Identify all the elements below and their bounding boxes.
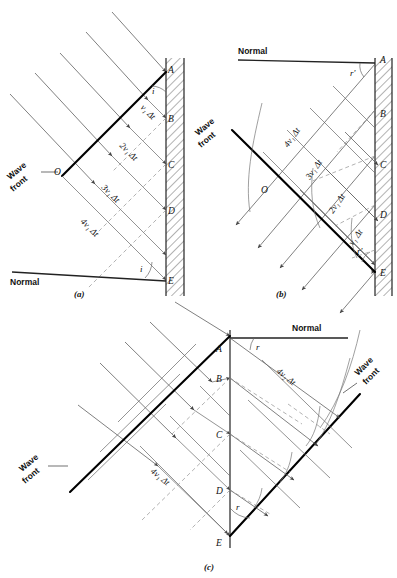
panel-b-point-C: C xyxy=(380,160,387,170)
panel-b-angle-label-bottom: r' xyxy=(357,246,364,256)
panel-b-distance-4: v₁ Δt xyxy=(346,227,364,247)
panel-c-rays-to-interface xyxy=(158,378,230,536)
panel-b-point-E: E xyxy=(379,268,386,278)
panel-b-distance-1: 4v₁ Δt xyxy=(281,125,302,149)
panel-c-incident-wavefront xyxy=(70,336,230,492)
panel-c-dashed-wavelets-medium1 xyxy=(142,378,230,530)
panel-a-point-B: B xyxy=(168,114,174,124)
panel-b-reflected-rays xyxy=(236,64,375,313)
panel-a-point-E: E xyxy=(167,276,174,286)
figure-svg: i Normal i Wave front A B C D E O v₁ Δt … xyxy=(0,0,397,578)
panel-a-point-A: A xyxy=(167,65,174,75)
panel-c-incident-rays xyxy=(78,302,230,466)
panel-c-angle-label-top: r xyxy=(256,342,260,352)
panel-b: Normal r' xyxy=(193,46,392,313)
panel-a-point-O: O xyxy=(54,167,61,177)
panel-a-angle-label-bottom: i xyxy=(140,264,143,274)
panel-a-incident-wavefront xyxy=(62,72,166,176)
panel-a-point-C: C xyxy=(168,160,175,170)
panel-b-angle-rprime-top xyxy=(360,63,364,77)
panel-c-grid-medium2 xyxy=(240,360,352,508)
panel-c-refracted-rays xyxy=(230,338,340,516)
panel-c-point-A: A xyxy=(215,344,222,354)
panel-c-point-E: E xyxy=(215,538,222,548)
panel-a-distance-2: 2v₁ Δt xyxy=(118,140,141,163)
panel-a-normal-label: Normal xyxy=(10,277,39,287)
panel-a-incident-rays xyxy=(10,12,166,184)
panel-a-angle-i-bottom xyxy=(145,262,152,278)
panel-b-point-D: D xyxy=(379,210,387,220)
panel-c: Normal r xyxy=(17,302,381,572)
panel-a-distance-3: 3v₁ Δt xyxy=(99,182,122,205)
panel-a-point-D: D xyxy=(167,206,175,216)
panel-a-angle-label-top: i xyxy=(152,86,155,96)
panel-b-point-A: A xyxy=(379,55,386,65)
panel-b-wall xyxy=(375,58,392,296)
panel-b-distance-2: 3v₁ Δt xyxy=(303,157,324,182)
panel-c-angle-r-top xyxy=(250,338,254,350)
panel-c-angle-label-bottom: r xyxy=(236,502,240,512)
panel-b-caption: (b) xyxy=(276,289,287,299)
panel-c-huygens-arcs xyxy=(254,358,350,508)
panel-c-wavefront-label-refracted: Wave front xyxy=(343,355,381,393)
panel-c-caption: (c) xyxy=(204,562,214,572)
panel-c-outer-arc xyxy=(320,330,360,428)
panel-a-caption: (a) xyxy=(74,289,85,299)
panel-c-distance-medium1: 4v₁ Δt xyxy=(149,466,172,488)
panel-a-wall xyxy=(166,58,184,296)
panel-c-refracted-wavefront xyxy=(230,394,360,536)
panel-b-wavefront-label: Wave front xyxy=(193,116,217,150)
panel-c-point-C: C xyxy=(216,430,223,440)
panel-b-point-B: B xyxy=(380,109,386,119)
panel-c-wavefront-label-incident: Wave front xyxy=(17,452,68,486)
panel-b-huygens-arcs xyxy=(248,103,357,258)
panel-b-angle-label-top: r' xyxy=(350,68,357,78)
panel-c-normal-label: Normal xyxy=(292,323,321,333)
panel-b-dashed-wavelets xyxy=(310,110,375,258)
figure-root: i Normal i Wave front A B C D E O v₁ Δt … xyxy=(0,0,397,578)
panel-a-wavefront-label: Wave front xyxy=(5,160,58,194)
panel-c-dashed-wavelets-medium2 xyxy=(230,378,330,514)
panel-a-distance-1: v₁ Δt xyxy=(139,102,159,122)
panel-a: i Normal i Wave front A B C D E O v₁ Δt … xyxy=(5,12,184,299)
panel-a-distance-4: 4v₁ Δt xyxy=(79,216,102,239)
panel-c-point-B: B xyxy=(216,374,222,384)
panel-b-distance-3: 2v₁ Δt xyxy=(326,191,347,215)
panel-b-point-O: O xyxy=(261,185,268,195)
panel-b-normal-line xyxy=(238,60,375,63)
panel-c-distance-medium2: 4v₂ Δt xyxy=(275,366,298,388)
panel-c-point-D: D xyxy=(215,486,223,496)
panel-b-normal-label: Normal xyxy=(238,46,267,56)
